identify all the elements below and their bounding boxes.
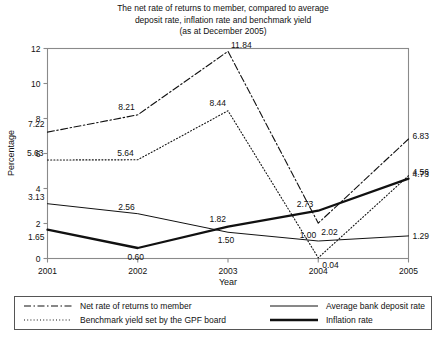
legend-label: Benchmark yield set by the GPF board <box>80 315 226 325</box>
data-point-label: 7.22 <box>28 119 45 129</box>
y-tick-label: 2 <box>36 219 41 229</box>
x-axis-tick-labels: 20012002200320042005 <box>38 266 418 276</box>
data-point-label: 2.56 <box>118 202 135 212</box>
data-point-label: 8.21 <box>118 102 135 112</box>
data-point-label: 2.02 <box>321 227 338 237</box>
y-tick-label: 0 <box>36 254 41 264</box>
chart-container: The net rate of returns to member, compa… <box>0 0 446 340</box>
x-axis-title: Year <box>219 277 237 287</box>
y-axis-ticks <box>44 49 48 259</box>
data-point-label: 8.44 <box>209 98 226 108</box>
series-lines <box>48 51 409 257</box>
x-axis-ticks <box>48 259 409 263</box>
y-tick-label: 10 <box>31 79 41 89</box>
x-tick-label: 2001 <box>38 266 57 276</box>
data-point-label: 6.83 <box>413 131 430 141</box>
legend-label: Net rate of returns to member <box>80 301 192 311</box>
data-point-label: 1.50 <box>218 235 235 245</box>
y-axis-title: Percentage <box>6 130 16 176</box>
x-tick-label: 2003 <box>219 266 238 276</box>
x-tick-label: 2005 <box>399 266 418 276</box>
data-point-label: 11.84 <box>231 40 252 50</box>
legend-label: Average bank deposit rate <box>326 301 425 311</box>
data-point-label: 4.56 <box>413 167 430 177</box>
data-point-label: 0.04 <box>322 260 339 270</box>
data-point-label: 5.63 <box>27 148 44 158</box>
y-tick-label: 12 <box>31 44 41 54</box>
data-point-labels: 7.228.2111.842.026.835.635.648.440.044.7… <box>27 40 429 269</box>
data-point-label: 1.29 <box>413 231 430 241</box>
legend-items: Net rate of returns to memberAverage ban… <box>24 301 425 325</box>
chart-svg: 024681012 20012002200320042005 Percentag… <box>0 0 446 340</box>
legend-label: Inflation rate <box>326 315 373 325</box>
x-tick-label: 2002 <box>128 266 147 276</box>
legend: Net rate of returns to memberAverage ban… <box>15 297 432 330</box>
data-point-label: 2.73 <box>297 199 314 209</box>
data-point-label: 1.00 <box>300 230 317 240</box>
data-point-label: 5.64 <box>117 148 134 158</box>
data-point-label: 0.60 <box>127 252 144 262</box>
data-point-label: 1.65 <box>28 232 45 242</box>
data-point-label: 1.82 <box>209 214 226 224</box>
data-point-label: 3.13 <box>28 192 45 202</box>
